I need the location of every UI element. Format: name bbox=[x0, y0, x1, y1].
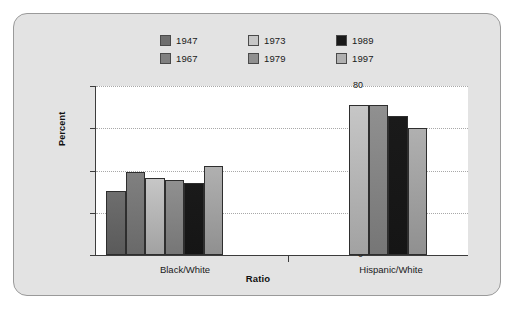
legend-label-1989: 1989 bbox=[352, 35, 374, 46]
legend-label-1973: 1973 bbox=[264, 35, 286, 46]
legend-item-1967: 1967 bbox=[160, 49, 236, 67]
bar-1997-Hispanic-White bbox=[408, 128, 428, 255]
legend-column-3: 1989 1997 bbox=[336, 31, 412, 71]
bar-1979-Black-White bbox=[165, 180, 185, 255]
y-axis-title: Percent bbox=[57, 112, 67, 146]
y-tick-80 bbox=[90, 86, 96, 87]
legend-label-1947: 1947 bbox=[176, 35, 198, 46]
bar-1973-Hispanic-White bbox=[349, 105, 369, 255]
bar-1979-Hispanic-White bbox=[369, 105, 389, 255]
bar-1989-Hispanic-White bbox=[388, 116, 408, 255]
legend-item-1973: 1973 bbox=[248, 31, 324, 49]
y-tick-label-80: 80 bbox=[339, 80, 363, 90]
legend-swatch-1947 bbox=[160, 35, 171, 46]
bar-1973-Black-White bbox=[145, 178, 165, 255]
y-tick-0 bbox=[90, 255, 96, 256]
legend-label-1997: 1997 bbox=[352, 53, 374, 64]
bar-1989-Black-White bbox=[184, 183, 204, 255]
x-axis-title: Ratio bbox=[0, 273, 516, 284]
y-tick-60 bbox=[90, 128, 96, 129]
legend-swatch-1979 bbox=[248, 53, 259, 64]
legend-item-1989: 1989 bbox=[336, 31, 412, 49]
y-tick-40 bbox=[90, 171, 96, 172]
gridline-80 bbox=[96, 86, 468, 87]
bar-1997-Black-White bbox=[204, 166, 224, 255]
legend-swatch-1973 bbox=[248, 35, 259, 46]
chart-legend: 1947 1967 1973 1979 1989 bbox=[160, 31, 400, 71]
legend-swatch-1967 bbox=[160, 53, 171, 64]
legend-swatch-1989 bbox=[336, 35, 347, 46]
x-axis-center-tick bbox=[288, 256, 289, 262]
plot-area: 020406080 Black/WhiteHispanic/White bbox=[95, 86, 468, 256]
chart-figure: 1947 1967 1973 1979 1989 bbox=[0, 0, 516, 311]
y-tick-20 bbox=[90, 213, 96, 214]
legend-label-1967: 1967 bbox=[176, 53, 198, 64]
bar-1967-Black-White bbox=[126, 172, 146, 255]
legend-column-1: 1947 1967 bbox=[160, 31, 236, 71]
legend-swatch-1997 bbox=[336, 53, 347, 64]
bar-1947-Black-White bbox=[106, 191, 126, 255]
legend-label-1979: 1979 bbox=[264, 53, 286, 64]
legend-item-1979: 1979 bbox=[248, 49, 324, 67]
legend-item-1947: 1947 bbox=[160, 31, 236, 49]
legend-column-2: 1973 1979 bbox=[248, 31, 324, 71]
legend-item-1997: 1997 bbox=[336, 49, 412, 67]
